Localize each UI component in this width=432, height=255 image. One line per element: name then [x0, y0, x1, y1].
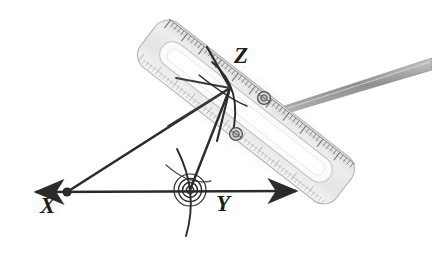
label-Y: Y: [216, 192, 230, 215]
geometry-scene: [0, 0, 432, 255]
protractor-center-target-Y: [174, 174, 206, 206]
ruler-rivet-upper: [258, 92, 271, 105]
figure-canvas: X Y Z: [0, 0, 432, 255]
double-headed-ray-XY: [36, 191, 296, 192]
vertex-X: [62, 187, 71, 196]
ruler-rivet-lower: [230, 128, 243, 141]
transparent-ruler: [124, 4, 369, 220]
label-X: X: [40, 194, 55, 217]
label-Z: Z: [234, 44, 248, 67]
